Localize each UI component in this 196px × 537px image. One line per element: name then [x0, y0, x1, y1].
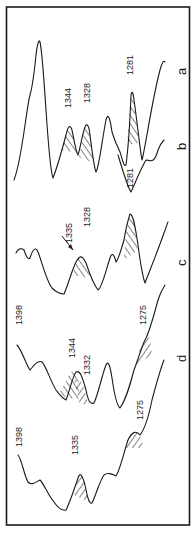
- trace-letter-d: d: [174, 355, 189, 362]
- hatched-peak-1275: [124, 432, 144, 448]
- hatched-peak-1335: [74, 475, 89, 502]
- hatched-peak-1281: [127, 92, 139, 145]
- peak-label-c-1328: 1328: [82, 207, 92, 227]
- peak-label-a-1281: 1281: [125, 55, 135, 75]
- spectra-figure: 1344 1328 1281 1281 1335 1328 1398 1344 …: [0, 0, 196, 537]
- peak-label-d-1332: 1332: [82, 355, 92, 375]
- peak-label-d-1398: 1398: [14, 305, 24, 325]
- trace-letter-b: b: [174, 143, 189, 150]
- trace-letter-a: a: [174, 67, 189, 75]
- peak-label-e-1335: 1335: [70, 435, 80, 455]
- hatched-peak-1275: [136, 337, 152, 365]
- figure-frame: [7, 7, 190, 525]
- spectrum-e: [18, 360, 164, 510]
- peak-label-a-1328: 1328: [82, 83, 92, 103]
- peak-label-e-1398: 1398: [14, 427, 24, 447]
- peak-label-d-1275: 1275: [138, 305, 148, 325]
- peak-label-e-1275: 1275: [135, 400, 145, 420]
- spectrum-c: [16, 214, 168, 294]
- spectrum-d: [17, 285, 165, 408]
- hatched-peak-1281: [124, 216, 138, 260]
- spectrum-a: [14, 41, 165, 180]
- peak-label-b-1281: 1281: [125, 168, 135, 188]
- peak-label-c-1335: 1335: [64, 223, 74, 243]
- peak-label-a-1344: 1344: [63, 88, 73, 108]
- trace-letter-c: c: [174, 259, 189, 266]
- peak-label-d-1344: 1344: [67, 338, 77, 358]
